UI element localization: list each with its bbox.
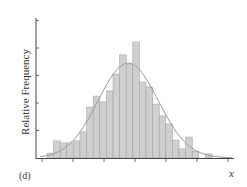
histogram-bar <box>159 116 166 158</box>
histogram-bar <box>179 149 186 158</box>
panel-label: (d) <box>19 170 31 181</box>
histogram-bar <box>93 96 100 158</box>
histogram-bar <box>73 141 80 158</box>
chart-canvas <box>0 0 247 187</box>
histogram-bar <box>166 124 173 158</box>
histogram-bar <box>54 141 61 158</box>
histogram-bar <box>80 132 87 158</box>
x-axis-label: x <box>229 167 234 179</box>
histogram-bar <box>133 42 140 158</box>
histogram-bar <box>106 91 113 158</box>
x-axis-ticks <box>42 159 228 163</box>
histogram-bar <box>120 55 127 158</box>
y-axis-label: Relative Frequency <box>19 49 31 135</box>
histogram-bar <box>153 104 160 158</box>
histogram-bar <box>126 64 133 158</box>
histogram-bar <box>139 82 146 158</box>
histogram-bar <box>146 87 153 158</box>
histogram-bar <box>113 74 120 158</box>
histogram-bars <box>47 42 212 158</box>
histogram-bar <box>100 102 107 158</box>
histogram-bar <box>87 107 94 158</box>
histogram-bar <box>172 140 179 158</box>
